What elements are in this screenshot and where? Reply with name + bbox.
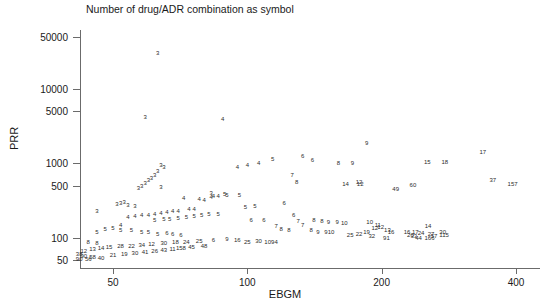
data-point-label: 14 — [425, 223, 432, 229]
data-point-label: 12 — [148, 241, 155, 247]
data-point-label: 4 — [126, 214, 129, 220]
data-point-label: 18 — [441, 159, 448, 165]
data-point-label: 5 — [119, 227, 122, 233]
data-point-label: 6 — [165, 230, 168, 236]
data-point-label: 4 — [212, 193, 215, 199]
data-point-label: 16 — [404, 229, 411, 235]
data-point-label: 10 — [341, 220, 348, 226]
y-axis-tick-label: 1000 — [0, 158, 68, 169]
y-axis-tick-mark — [73, 111, 80, 112]
data-point-label: 8 — [320, 218, 323, 224]
data-point-label: 4 — [202, 197, 205, 203]
x-axis-tick-mark — [382, 268, 383, 274]
data-point-label: 43 — [161, 247, 168, 253]
data-point-label: 4 — [198, 196, 201, 202]
data-point-label: 16 — [234, 237, 241, 243]
data-point-label: 6 — [171, 231, 174, 237]
data-point-label: 7 — [301, 222, 304, 228]
data-point-label: 10 — [366, 219, 373, 225]
data-point-label: 60 — [410, 182, 417, 188]
data-point-label: 5 — [216, 211, 219, 217]
x-axis-tick-label: 100 — [239, 277, 256, 288]
data-point-label: 3 — [95, 208, 98, 214]
y-axis-tick-label: 500 — [0, 180, 68, 191]
data-point-label: 18 — [172, 239, 179, 245]
data-point-label: 21 — [110, 252, 117, 258]
data-point-label: 7 — [290, 172, 293, 178]
data-point-label: 5 — [223, 191, 226, 197]
page-title: Number of drug/ADR combination as symbol — [86, 3, 294, 15]
data-point-label: 6 — [283, 200, 286, 206]
data-point-label: 15 — [424, 159, 431, 165]
data-point-label: 9 — [327, 219, 330, 225]
data-point-label: 3 — [119, 200, 122, 206]
data-point-label: 40 — [98, 255, 105, 261]
data-point-label: 41 — [142, 249, 149, 255]
data-point-label: 8 — [309, 227, 312, 233]
data-point-label: 13 — [89, 246, 96, 252]
data-point-label: 3 — [115, 201, 118, 207]
data-point-label: 4 — [165, 209, 168, 215]
data-point-label: 30 — [439, 229, 446, 235]
data-point-label: 166 — [424, 235, 434, 241]
data-point-label: 157 — [508, 181, 518, 187]
y-axis-tick-mark — [73, 260, 80, 261]
data-point-label: 4 — [147, 212, 150, 218]
scatter-plot-area: 3349566891518173715743781212144960443333… — [0, 0, 550, 306]
data-point-label: 4 — [210, 194, 213, 200]
data-point-label: 6 — [262, 217, 265, 223]
y-axis-line — [80, 30, 81, 268]
data-point-label: 6 — [301, 153, 304, 159]
data-point-label: 8 — [295, 179, 298, 185]
x-axis-tick-label: 50 — [107, 277, 118, 288]
data-point-label: 3 — [162, 164, 165, 170]
data-point-label: 48 — [201, 243, 208, 249]
data-point-label: 4 — [216, 193, 219, 199]
data-point-label: 8 — [279, 226, 282, 232]
data-point-label: 3 — [137, 185, 140, 191]
data-point-label: 12 — [357, 181, 364, 187]
data-point-label: 3 — [156, 168, 159, 174]
data-point-label: 19 — [363, 229, 370, 235]
y-axis-tick-label: 50 — [0, 255, 68, 266]
y-axis-tick-mark — [73, 238, 80, 239]
data-point-label: 12 — [356, 179, 363, 185]
data-point-label: 4 — [171, 208, 174, 214]
data-point-label: 3 — [159, 162, 162, 168]
data-point-label: 25 — [196, 238, 203, 244]
data-point-label: 5 — [130, 227, 133, 233]
data-point-label: 10 — [328, 229, 335, 235]
data-point-label: 5 — [95, 229, 98, 235]
data-point-label: 6 — [292, 212, 295, 218]
data-point-label: 12 — [80, 248, 87, 254]
data-point-label: 5 — [103, 226, 106, 232]
data-point-label: 9 — [351, 160, 354, 166]
data-point-label: 3 — [123, 199, 126, 205]
data-point-label: 3 — [133, 203, 136, 209]
data-point-label: 13 — [384, 227, 391, 233]
y-axis-tick-mark — [73, 186, 80, 187]
data-point-label: 4 — [119, 222, 122, 228]
data-point-label: 5 — [238, 192, 241, 198]
data-point-label: 6 — [179, 232, 182, 238]
data-point-label: 26 — [151, 248, 158, 254]
data-point-label: 115 — [439, 232, 449, 238]
data-point-label: 8 — [87, 239, 90, 245]
data-point-label: 5 — [192, 213, 195, 219]
data-point-label: 56 — [85, 256, 92, 262]
data-point-label: 34 — [138, 242, 145, 248]
data-point-label: 24 — [418, 230, 425, 236]
data-point-label: 17 — [479, 149, 486, 155]
data-point-label: 45 — [188, 244, 195, 250]
data-point-label: 19 — [121, 251, 128, 257]
data-point-label: 3 — [159, 184, 162, 190]
y-axis-title: PRR — [8, 127, 20, 150]
data-point-label: 9 — [336, 219, 339, 225]
x-axis-tick-label: 400 — [508, 277, 525, 288]
data-point-label: 4 — [192, 206, 195, 212]
x-axis-line — [80, 268, 540, 269]
data-point-label: 30 — [132, 250, 139, 256]
data-point-label: 5 — [225, 192, 228, 198]
data-point-label: 5 — [185, 214, 188, 220]
data-point-label: 9 — [365, 140, 368, 146]
